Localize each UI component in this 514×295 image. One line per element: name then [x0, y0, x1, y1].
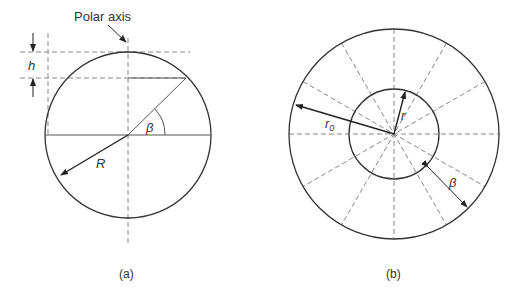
r-label: r — [401, 108, 406, 123]
R-label: R — [96, 156, 105, 171]
caption-a: (a) — [119, 267, 134, 281]
beta-label-b: β — [448, 175, 457, 190]
figure-b: r0 r β (b) — [289, 29, 499, 281]
r0-label: r0 — [325, 116, 334, 133]
caption-b: (b) — [386, 267, 401, 281]
beta-arc — [155, 109, 165, 135]
beta-thickness-arrow — [428, 167, 467, 207]
beta-label: β — [145, 120, 154, 135]
polar-axis-label: Polar axis — [74, 9, 132, 24]
diagram-canvas: Polar axis h β R (a) r0 r β (b) — [0, 0, 514, 295]
angle-ray — [128, 78, 186, 135]
figure-a: Polar axis h β R (a) — [20, 9, 211, 281]
radius-arrow-R — [61, 135, 128, 175]
h-label: h — [28, 58, 35, 73]
polar-axis-pointer — [108, 25, 126, 42]
